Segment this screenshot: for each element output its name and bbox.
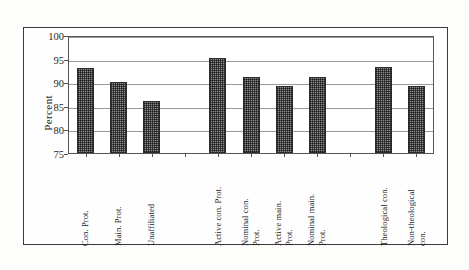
bar-slot <box>268 37 301 153</box>
y-axis-title: Percent <box>42 95 54 131</box>
bar-slot <box>102 37 135 153</box>
bar-slot <box>234 37 267 153</box>
x-label-line: Prot. <box>317 156 328 246</box>
bar[interactable] <box>77 68 94 153</box>
x-label-line: Non-theological <box>406 156 417 246</box>
bar[interactable] <box>110 82 127 153</box>
x-label-line: Active main. <box>273 156 284 246</box>
bar-slot <box>367 37 400 153</box>
bar[interactable] <box>309 77 326 154</box>
bar-slot <box>201 37 234 153</box>
bar-slot <box>301 37 334 153</box>
x-label: Main. Prot. <box>112 156 123 246</box>
x-label: Nominal main.Prot. <box>306 156 328 246</box>
x-label: Active main.Prot. <box>273 156 295 246</box>
x-label-slot: Theological con. <box>367 156 400 248</box>
bar-slot-empty <box>334 37 367 153</box>
x-label-slot: Con. Prot. <box>68 156 101 248</box>
bar[interactable] <box>408 86 425 153</box>
x-label-slot: Nominal con.Prot. <box>234 156 267 248</box>
x-label-line: Unaffiliated <box>146 156 157 246</box>
x-label-line: Active con. Prot. <box>212 156 223 246</box>
x-label: Nominal con.Prot. <box>240 156 262 246</box>
bar[interactable] <box>276 86 293 153</box>
chart-page: Percent 100 95 90 85 80 75 Con. Prot.Mai… <box>0 0 469 270</box>
x-label: Active con. Prot. <box>212 156 223 246</box>
bar[interactable] <box>209 58 226 153</box>
x-label-line: con. <box>417 156 428 246</box>
x-label-line: Nominal main. <box>306 156 317 246</box>
x-label: Unaffiliated <box>146 156 157 246</box>
x-label: Con. Prot. <box>79 156 90 246</box>
x-label-slot: Main. Prot. <box>101 156 134 248</box>
bar-slot <box>69 37 102 153</box>
x-label-line: Theological con. <box>379 156 390 246</box>
bar-slot <box>135 37 168 153</box>
bar[interactable] <box>143 101 160 153</box>
x-label-slot: Non-theologicalcon. <box>401 156 434 248</box>
bar-slot <box>400 37 433 153</box>
x-label-slot: Unaffiliated <box>135 156 168 248</box>
x-label-line: Main. Prot. <box>112 156 123 246</box>
x-label-slot: Active main.Prot. <box>268 156 301 248</box>
x-label-line: Prot. <box>284 156 295 246</box>
x-label: Non-theologicalcon. <box>406 156 428 246</box>
bar-series <box>69 37 433 153</box>
x-label-line: Prot. <box>251 156 262 246</box>
x-label-line: Con. Prot. <box>79 156 90 246</box>
plot-area <box>68 36 434 154</box>
x-label-slot: Active con. Prot. <box>201 156 234 248</box>
bar[interactable] <box>375 67 392 153</box>
x-label-slot <box>168 156 201 248</box>
x-label: Theological con. <box>379 156 390 246</box>
x-label-line: Nominal con. <box>240 156 251 246</box>
x-label-slot: Nominal main.Prot. <box>301 156 334 248</box>
y-axis-title-wrap: Percent <box>42 95 54 131</box>
bar-slot-empty <box>168 37 201 153</box>
x-axis-tick-labels: Con. Prot.Main. Prot.UnaffiliatedActive … <box>68 156 434 248</box>
x-label-slot <box>334 156 367 248</box>
bar[interactable] <box>243 77 260 153</box>
